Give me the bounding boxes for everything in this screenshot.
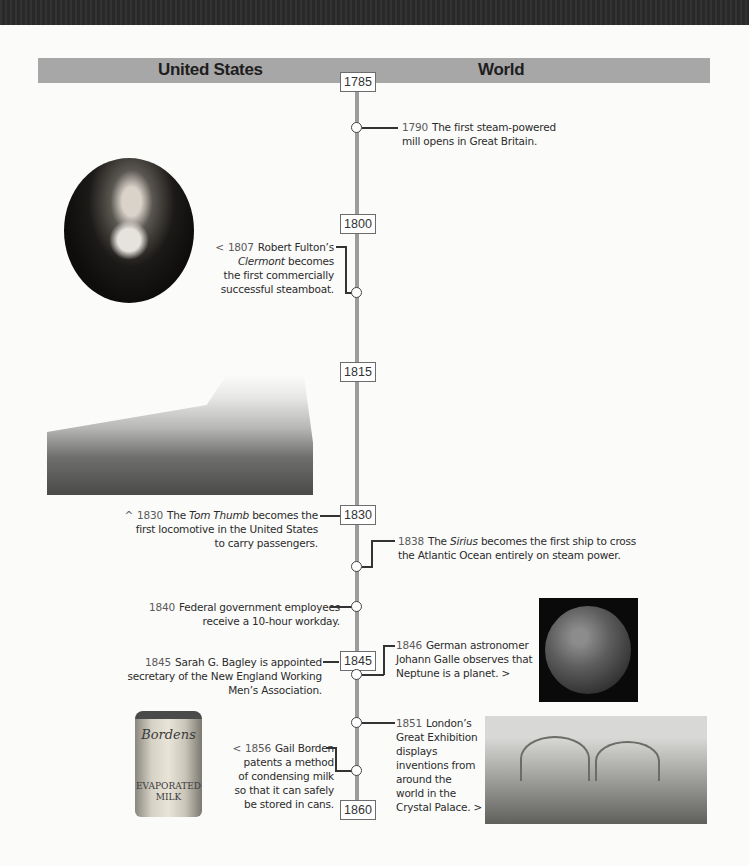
event-1807: <1807Robert Fulton’s Clermont becomes th… [188,240,334,296]
bordens-milk-can-image: Bordens EVAPORATEDMILK [135,711,202,817]
top-dark-band [0,0,749,25]
event-1856: <1856Gail Borden patents a method of con… [210,741,334,811]
connector-1846-top [383,645,395,647]
event-dot-1807 [351,287,362,298]
connector-1846-vert [383,645,385,675]
event-dot-1790 [351,122,362,133]
year-marker-1830: 1830 [340,505,376,525]
event-dot-1838 [351,561,362,572]
year-marker-1860: 1860 [340,800,376,820]
connector-1838-vert [371,540,373,567]
connector-1846-bottom [362,674,384,676]
event-1846: 1846German astronomer Johann Galle obser… [396,638,541,680]
connector-1807-vert [345,246,347,293]
robert-fulton-portrait [64,158,194,303]
crystal-palace-image [485,716,707,824]
connector-1830 [320,515,340,517]
event-1838: 1838The Sirius becomes the first ship to… [398,534,698,562]
event-1830: ^1830The Tom Thumb becomes the first loc… [110,508,318,550]
neptune-image [539,598,638,702]
event-1845: 1845Sarah G. Bagley is appointed secreta… [80,655,322,697]
connector-1856-vert [335,747,337,771]
header-united-states: United States [158,60,263,80]
connector-1838-top [371,540,395,542]
year-marker-1845: 1845 [340,651,376,671]
year-marker-1785: 1785 [340,72,376,92]
connector-1851 [362,722,395,724]
event-dot-1846 [351,669,362,680]
connector-1845 [323,661,339,663]
event-dot-1856 [351,765,362,776]
header-world: World [478,60,524,80]
connector-1790 [362,127,398,129]
event-dot-1851 [351,717,362,728]
event-1851: 1851London’s Great Exhibition displays i… [396,716,486,814]
year-marker-1800: 1800 [340,214,376,234]
connector-1840 [330,606,352,608]
event-1790: 1790The first steam-powered mill opens i… [402,120,642,148]
event-1840: 1840Federal government employees receive… [100,600,340,628]
event-dot-1840 [351,601,362,612]
year-marker-1815: 1815 [340,362,376,382]
timeline-axis [355,82,359,820]
steam-train-image [47,345,313,495]
